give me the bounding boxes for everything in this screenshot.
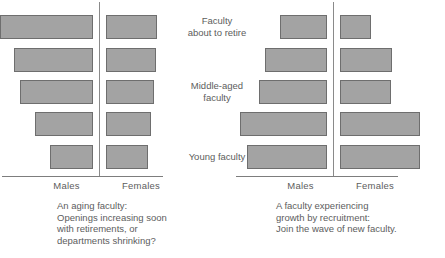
bar-males bbox=[259, 80, 327, 104]
bar-females bbox=[106, 15, 157, 39]
bar-females bbox=[106, 145, 148, 169]
bar-females bbox=[106, 48, 156, 72]
bar-females bbox=[340, 48, 392, 72]
center-axis-right bbox=[333, 2, 334, 176]
bar-males bbox=[247, 145, 327, 169]
pyramid-row bbox=[234, 15, 445, 39]
bar-females bbox=[340, 80, 391, 104]
bar-males bbox=[20, 80, 93, 104]
category-label-group: Faculty about to retireMiddle-aged facul… bbox=[178, 0, 256, 178]
bar-males bbox=[14, 48, 93, 72]
bar-females bbox=[106, 112, 151, 136]
bar-females bbox=[106, 80, 154, 104]
chart-growing-faculty: Males Females bbox=[234, 0, 445, 200]
center-axis-left bbox=[99, 2, 100, 176]
bar-females bbox=[340, 112, 420, 136]
figure-canvas: Males Females Males Females Faculty abou… bbox=[0, 0, 445, 258]
baseline-axis-left bbox=[2, 176, 163, 177]
axis-label-males-left: Males bbox=[39, 180, 94, 191]
caption-aging-faculty: An aging faculty: Openings increasing so… bbox=[57, 200, 217, 246]
caption-growing-faculty: A faculty experiencing growth by recruit… bbox=[276, 200, 441, 235]
bar-females bbox=[340, 15, 371, 39]
category-label: Middle-aged faculty bbox=[178, 80, 256, 104]
axis-label-females-left: Females bbox=[111, 180, 171, 191]
bar-males bbox=[265, 48, 327, 72]
pyramid-row bbox=[234, 112, 445, 136]
bar-males bbox=[35, 112, 93, 136]
bar-males bbox=[50, 145, 93, 169]
pyramid-row bbox=[234, 80, 445, 104]
pyramid-row bbox=[234, 145, 445, 169]
pyramid-row bbox=[234, 48, 445, 72]
axis-label-females-right: Females bbox=[345, 180, 405, 191]
category-label: Faculty about to retire bbox=[178, 15, 256, 39]
category-label: Young faculty bbox=[178, 151, 256, 163]
pyramid-rows-right bbox=[234, 0, 445, 176]
bar-males bbox=[280, 15, 327, 39]
bar-females bbox=[340, 145, 420, 169]
baseline-axis-right bbox=[236, 176, 398, 177]
axis-label-males-right: Males bbox=[273, 180, 328, 191]
bar-males bbox=[0, 15, 93, 39]
